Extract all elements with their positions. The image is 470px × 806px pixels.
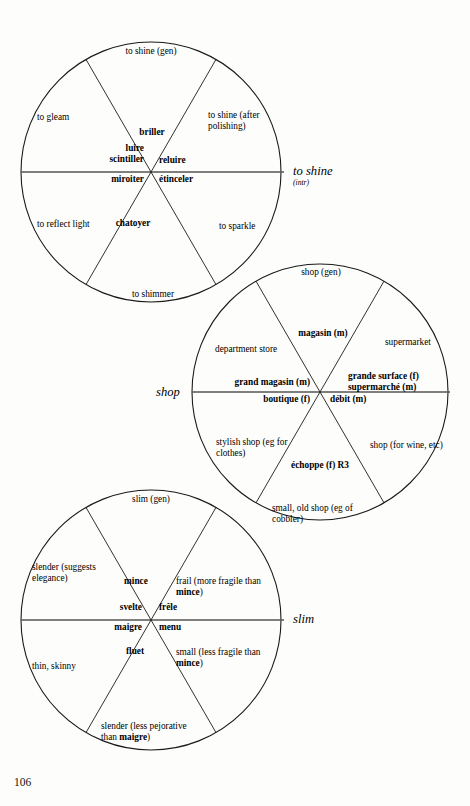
wheel-3-gloss-lower-right: small (less fragile than mince) (176, 647, 300, 669)
wheel-3-term-frele: frêle (159, 602, 217, 613)
wheel-3-term-svelte: svelte (80, 602, 142, 613)
wheel-3-gloss-top: slim (gen) (108, 494, 194, 505)
wheel-3-term-maigre: maigre (80, 622, 142, 633)
wheel-3-term-menu: menu (159, 622, 217, 633)
wheel-3-gloss-lower-left: thin, skinny (32, 661, 122, 672)
wheel-3-term-mince: mince (104, 576, 168, 587)
wheel-3-gloss-upper-right: frail (more fragile than mince) (176, 576, 300, 598)
wheel-3-headword-text: slim (293, 612, 314, 626)
wheel-3-gloss-bottom: slender (less pejorative than maigre) (101, 721, 225, 743)
wheel-3-headword: slim (293, 613, 314, 626)
semantic-wheel-slim: slim (gen) frail (more fragile than minc… (0, 0, 470, 790)
page-number: 106 (14, 776, 31, 788)
book-page: to shine (gen) to shine (after polishing… (0, 0, 470, 806)
wheel-3-term-fluet: fluet (104, 646, 166, 657)
